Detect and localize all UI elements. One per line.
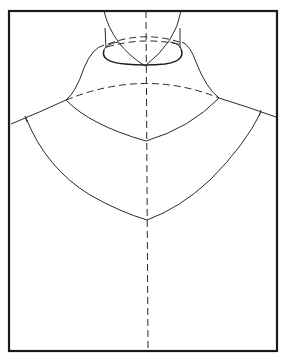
shoulder-line-left (11, 100, 66, 124)
center-line-dashed (146, 11, 148, 350)
collar-stand-left (66, 45, 104, 100)
pattern-diagram (0, 0, 288, 356)
collar-stand-right (182, 42, 219, 98)
frame (9, 11, 277, 351)
neck-ellipse-front (103, 49, 182, 65)
neck-ellipse-right (170, 42, 181, 49)
bodice-curve (26, 112, 261, 220)
shoulder-line-right (219, 98, 276, 117)
yoke-curve (66, 98, 219, 141)
neck-column-left (104, 11, 145, 66)
neckline-base-dashed (66, 83, 219, 100)
neck-side-left (105, 28, 106, 48)
